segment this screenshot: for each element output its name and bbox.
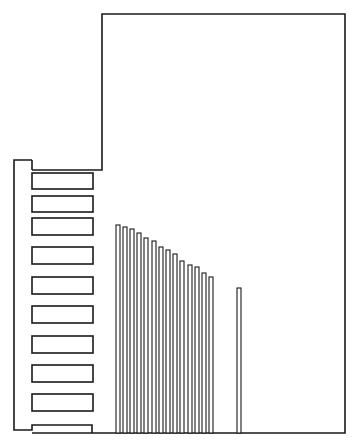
slot-7	[32, 336, 93, 353]
slot-2	[32, 196, 93, 212]
fin-3	[130, 229, 134, 433]
fin-array	[116, 225, 241, 433]
fin-8	[166, 250, 170, 433]
slot-5	[32, 277, 93, 294]
line-drawing	[0, 0, 356, 444]
fin-11	[188, 265, 192, 433]
diagram-canvas: Heat sink / component assembly line draw…	[0, 0, 356, 444]
left-bracket	[14, 160, 92, 433]
fin-6	[152, 241, 156, 433]
fin-5	[144, 238, 148, 433]
slot-6	[32, 306, 93, 323]
fin-4	[137, 233, 141, 433]
fin-10	[180, 261, 184, 433]
fin-1	[116, 225, 120, 433]
slot-4	[32, 247, 93, 264]
slot-8	[32, 365, 93, 382]
slot-9	[32, 394, 93, 411]
fin-9	[173, 254, 177, 433]
slot-3	[32, 218, 93, 235]
slot-1	[32, 173, 93, 189]
fin-14	[209, 277, 213, 433]
slots	[32, 173, 93, 411]
fin-15	[237, 288, 241, 433]
fin-7	[159, 247, 163, 433]
fin-13	[202, 273, 206, 433]
bracket-outline	[14, 160, 92, 433]
fin-12	[195, 267, 199, 433]
fin-2	[123, 227, 127, 433]
